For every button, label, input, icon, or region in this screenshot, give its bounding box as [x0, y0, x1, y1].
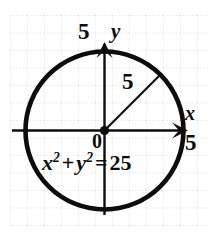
equation-variable-x: x: [42, 150, 53, 175]
circle-equation-figure: 5 y 5 x 5 0 x2+y2=25: [0, 0, 221, 237]
equation-label: x2+y2=25: [42, 152, 131, 174]
origin-label-0: 0: [92, 131, 102, 151]
equation-exponent-y: 2: [86, 150, 93, 165]
equation-equals-operator: =: [93, 150, 110, 175]
y-axis-tick-label-5: 5: [78, 20, 90, 43]
x-axis-name-label: x: [185, 103, 195, 123]
equation-plus-operator: +: [60, 150, 77, 175]
x-axis-tick-label-5: 5: [185, 131, 197, 154]
y-axis-name-label: y: [111, 21, 120, 42]
equation-variable-y: y: [76, 150, 86, 175]
radius-length-label-5: 5: [122, 70, 134, 93]
equation-exponent-x: 2: [53, 150, 60, 165]
equation-right-hand-side: 25: [109, 150, 131, 175]
graph-paper-grid: [10, 15, 210, 228]
